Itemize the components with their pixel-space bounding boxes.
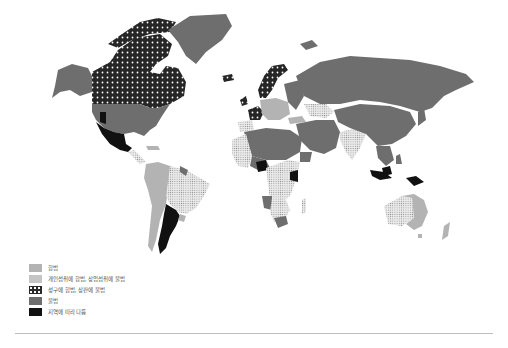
region-brazil xyxy=(166,166,210,214)
region-scandinavia xyxy=(258,64,288,98)
map-legend: 합법 개인섭취에 합법, 상업섭취에 불법 성구에 합법, 상판에 불법 불법 … xyxy=(29,262,125,317)
region-philippines xyxy=(396,154,402,164)
region-greenland xyxy=(168,14,232,64)
region-uk xyxy=(240,96,248,106)
world-map xyxy=(0,0,508,260)
region-russia xyxy=(296,56,474,112)
legend-item-legal: 합법 xyxy=(29,262,125,273)
region-tasmania xyxy=(418,234,422,238)
legend-label: 불법 xyxy=(48,297,58,305)
legend-swatch-personal xyxy=(29,275,42,283)
legend-item-medical: 성구에 합법, 상판에 불법 xyxy=(29,284,125,295)
region-north-africa xyxy=(244,128,302,160)
legend-item-illegal: 불법 xyxy=(29,295,125,306)
region-iberia xyxy=(238,120,254,132)
legend-swatch-varies xyxy=(29,308,42,316)
region-south-africa xyxy=(274,216,288,228)
region-caribbean xyxy=(146,146,160,150)
legend-swatch-legal xyxy=(29,264,42,272)
region-madagascar xyxy=(302,198,306,214)
region-india xyxy=(340,128,366,160)
region-middle-east xyxy=(296,120,340,154)
region-central-america xyxy=(128,150,146,164)
legend-label: 개인섭취에 합법, 상업섭취에 불법 xyxy=(48,275,125,283)
legend-item-personal: 개인섭취에 합법, 상업섭취에 불법 xyxy=(29,273,125,284)
legend-label: 지역에 따라 다름 xyxy=(48,308,87,316)
region-southeast-asia xyxy=(376,146,394,166)
region-canada xyxy=(92,34,186,108)
region-central-asia xyxy=(304,104,334,118)
legend-swatch-illegal xyxy=(29,297,42,305)
region-usa-west xyxy=(100,112,106,124)
legend-label: 성구에 합법, 상판에 불법 xyxy=(48,286,105,294)
region-new-zealand xyxy=(442,222,450,240)
region-kenya xyxy=(290,170,298,182)
region-horn-africa xyxy=(300,152,312,162)
region-angola xyxy=(262,196,272,210)
legend-swatch-medical xyxy=(29,286,42,294)
region-iceland xyxy=(222,74,234,82)
region-alaska xyxy=(52,64,92,98)
divider-line xyxy=(15,333,493,334)
region-nigeria xyxy=(256,160,268,172)
legend-label: 합법 xyxy=(48,264,58,272)
region-arctic-islands xyxy=(300,40,318,50)
region-papua xyxy=(406,176,424,186)
region-central-europe xyxy=(260,98,290,120)
legend-item-varies: 지역에 따라 다름 xyxy=(29,306,125,317)
